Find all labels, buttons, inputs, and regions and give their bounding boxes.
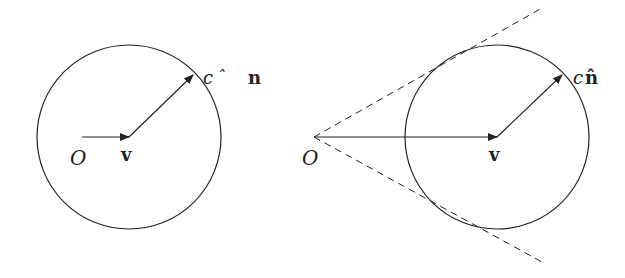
left-origin-label: O xyxy=(70,146,86,170)
right-velocity-label: v xyxy=(488,144,500,165)
right-origin-label: O xyxy=(302,146,318,170)
right-radius-arrow xyxy=(497,75,562,137)
right-lower-tangent-line xyxy=(314,137,542,262)
left-panel: O v c ˆ n xyxy=(37,45,261,229)
left-radius-label-c: c xyxy=(203,67,213,88)
right-radius-label-c: c xyxy=(573,67,583,88)
velocity-sphere-diagram: O v c ˆ n O v c n̂ xyxy=(0,0,625,278)
left-radius-label-hat: ˆ xyxy=(217,67,225,86)
right-radius-label-n: n̂ xyxy=(585,67,598,88)
left-velocity-label: v xyxy=(120,144,132,165)
right-panel: O v c n̂ xyxy=(302,8,598,262)
right-upper-tangent-line xyxy=(314,8,542,137)
left-radius-label-n: n xyxy=(248,67,261,88)
left-radius-arrow xyxy=(129,75,193,137)
